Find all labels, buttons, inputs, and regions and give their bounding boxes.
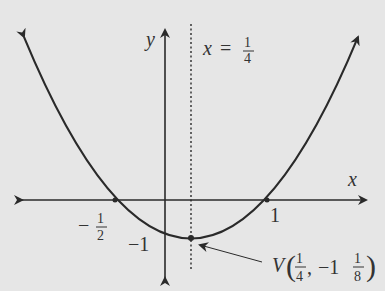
tick-neg-one: −1 [128, 233, 149, 255]
tick-neg-half-sign: − [78, 214, 89, 236]
vertex-paren-open: ( [286, 249, 296, 283]
vertex-paren-close: ) [366, 249, 376, 283]
root-point-neg-half [113, 198, 118, 203]
vertex-comma: , [307, 256, 312, 278]
symmetry-label-num: 1 [244, 35, 251, 50]
vertex-y-den: 8 [354, 269, 361, 284]
symmetry-label-den: 4 [244, 51, 251, 66]
symmetry-label-eq: = [220, 37, 231, 59]
y-axis-label: y [144, 28, 155, 51]
vertex-point [188, 235, 194, 241]
vertex-x-den: 4 [296, 269, 303, 284]
vertex-y-whole: −1 [318, 256, 339, 278]
symmetry-label-x: x [202, 37, 212, 59]
vertex-pointer-arrow [200, 245, 262, 262]
vertex-label-V: V [272, 254, 287, 276]
vertex-x-num: 1 [296, 251, 303, 266]
tick-neg-half-num: 1 [97, 211, 104, 226]
tick-neg-half-den: 2 [97, 228, 104, 243]
diagram-canvas: y x x = 1 4 − 1 2 1 −1 V ( 1 4 , −1 1 8 … [0, 0, 385, 291]
x-axis-label: x [347, 168, 357, 190]
root-point-one [265, 198, 270, 203]
tick-one: 1 [270, 204, 280, 226]
vertex-y-num: 1 [354, 251, 361, 266]
parabola-diagram: y x x = 1 4 − 1 2 1 −1 V ( 1 4 , −1 1 8 … [0, 0, 385, 291]
